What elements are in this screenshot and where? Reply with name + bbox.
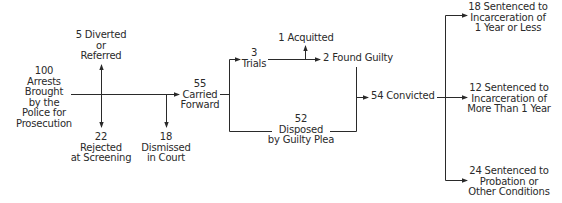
arrests-label-2: Brought: [14, 87, 74, 98]
acquitted-label: 1 Acquitted: [276, 33, 336, 44]
node-guilty: 2 Found Guilty: [323, 53, 391, 64]
dismissed-label-2: in Court: [136, 153, 196, 164]
arrests-label-4: Police for: [14, 108, 74, 119]
arrests-count: 100: [14, 66, 74, 77]
rejected-label-2: at Screening: [66, 153, 136, 164]
convicted-label: 54 Convicted: [371, 91, 437, 102]
node-plea: 52 Disposed by Guilty Plea: [266, 114, 336, 146]
probation-label-3: Other Conditions: [463, 187, 555, 198]
node-sentence-short: 18 Sentenced to Incarceration of 1 Year …: [466, 2, 550, 34]
sentence-long-label-3: More Than 1 Year: [463, 104, 555, 115]
dismissed-count: 18: [136, 132, 196, 143]
sentence-short-label-1: 18 Sentenced to: [466, 2, 550, 13]
carried-count: 55: [180, 79, 220, 90]
sentence-short-label-3: 1 Year or Less: [466, 23, 550, 34]
node-arrests: 100 Arrests Brought by the Police for Pr…: [14, 66, 74, 129]
diverted-label-3: Referred: [71, 51, 131, 62]
plea-count: 52: [266, 114, 336, 125]
node-diverted: 5 Diverted or Referred: [71, 30, 131, 62]
node-carried: 55 Carried Forward: [180, 79, 220, 111]
node-convicted: 54 Convicted: [371, 91, 437, 102]
node-rejected: 22 Rejected at Screening: [66, 132, 136, 164]
trials-label: Trials: [239, 59, 269, 70]
node-dismissed: 18 Dismissed in Court: [136, 132, 196, 164]
diverted-label-1: 5 Diverted: [71, 30, 131, 41]
node-acquitted: 1 Acquitted: [276, 33, 336, 44]
node-trials: 3 Trials: [239, 48, 269, 69]
node-probation: 24 Sentenced to Probation or Other Condi…: [463, 166, 555, 198]
guilty-label: 2 Found Guilty: [323, 53, 391, 64]
sentence-long-label-1: 12 Sentenced to: [463, 83, 555, 94]
arrests-label-5: Prosecution: [14, 119, 74, 130]
arrow-to-trials: [230, 60, 241, 132]
trials-count: 3: [239, 48, 269, 59]
plea-label-2: by Guilty Plea: [266, 135, 336, 146]
carried-label-2: Forward: [180, 100, 220, 111]
node-sentence-long: 12 Sentenced to Incarceration of More Th…: [463, 83, 555, 115]
probation-label-1: 24 Sentenced to: [463, 166, 555, 177]
rejected-count: 22: [66, 132, 136, 143]
